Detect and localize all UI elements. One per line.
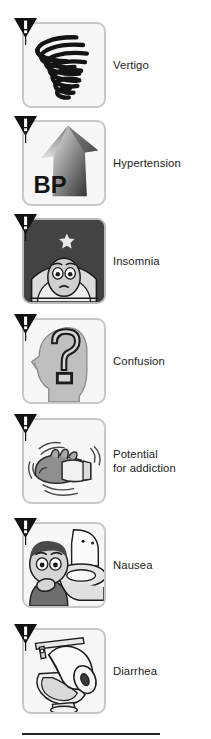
warning-triangle-icon [13,312,38,342]
list-item[interactable]: BP Hypertension [0,116,211,216]
list-item[interactable]: Confusion [0,314,211,414]
list-item-label-wrap: Nausea [113,518,209,612]
list-item[interactable]: Vertigo [0,18,211,118]
list-item-label-wrap: Diarrhea [113,624,209,718]
list-item-label-wrap: Confusion [113,314,209,408]
list-item-label-wrap: Vertigo [113,18,209,112]
warning-triangle-icon [13,622,38,652]
list-item[interactable]: Nausea [0,518,211,618]
list-item[interactable]: Diarrhea [0,624,211,724]
warning-triangle-icon [13,516,38,546]
warning-triangle-icon [13,114,38,144]
list-item-label: Confusion [113,354,165,369]
list-item-label-wrap: Potential for addiction [113,414,209,508]
list-item-label: Insomnia [113,254,160,269]
warning-triangle-icon [13,212,38,242]
bp-art-text: BP [34,171,67,198]
list-item[interactable]: Insomnia [0,214,211,314]
list-item-label: Hypertension [113,156,181,171]
list-item-label: Potential for addiction [113,447,176,476]
list-item-label: Diarrhea [113,664,157,679]
list-item-label: Nausea [113,558,153,573]
list-item-label-wrap: Insomnia [113,214,209,308]
list-item[interactable]: Potential for addiction [0,414,211,514]
warning-triangle-icon [13,412,38,442]
list-item-label-wrap: Hypertension [113,116,209,210]
warning-triangle-icon [13,16,38,46]
bottom-divider [22,733,160,735]
side-effects-list: Vertigo BP [0,0,211,739]
list-item-label: Vertigo [113,58,149,73]
